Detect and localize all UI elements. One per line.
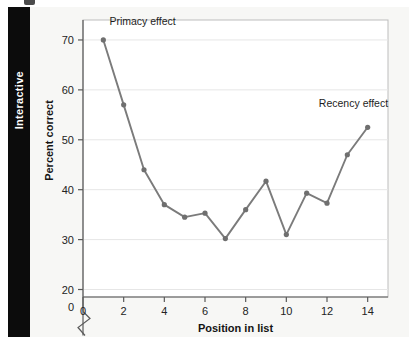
figure-content-area bbox=[30, 7, 409, 337]
partial-glyph-icon bbox=[24, 0, 35, 5]
figure-root: Interactive 203040506070002468101214 Pri… bbox=[0, 0, 417, 353]
interactive-tab[interactable]: Interactive bbox=[8, 7, 30, 337]
interactive-tab-label: Interactive bbox=[13, 71, 25, 129]
